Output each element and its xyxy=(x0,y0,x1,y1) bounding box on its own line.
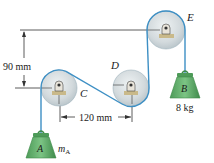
bracket-icon xyxy=(159,34,174,38)
weight-label-a: A xyxy=(36,143,44,154)
pulley-label-e: E xyxy=(186,11,194,23)
bracket-icon xyxy=(52,91,66,95)
pulley-e: E xyxy=(147,11,194,49)
axle-icon xyxy=(129,83,132,86)
mass-label-b: 8 kg xyxy=(176,102,194,113)
axle-icon xyxy=(57,83,60,86)
axle-icon xyxy=(164,26,167,29)
pulley-label-c: C xyxy=(80,87,88,99)
weight-label-b: B xyxy=(181,83,187,94)
arrow-up-icon xyxy=(22,31,26,37)
pulley-label-d: D xyxy=(110,59,119,71)
arrow-right-icon xyxy=(125,115,131,119)
pulley-diagram: 90 mm 120 mm C xyxy=(0,0,214,163)
bracket-icon xyxy=(124,91,138,95)
pulley-c: C xyxy=(41,70,88,106)
arrow-down-icon xyxy=(22,81,26,87)
dimension-label-horizontal: 120 mm xyxy=(79,112,112,123)
pulley-d: D xyxy=(110,59,149,106)
weight-a: A mA xyxy=(26,131,70,158)
mass-label-a: mA xyxy=(58,143,70,156)
dimension-label-vertical: 90 mm xyxy=(3,61,31,72)
weight-b: B 8 kg xyxy=(170,71,200,113)
arrow-left-icon xyxy=(61,115,67,119)
